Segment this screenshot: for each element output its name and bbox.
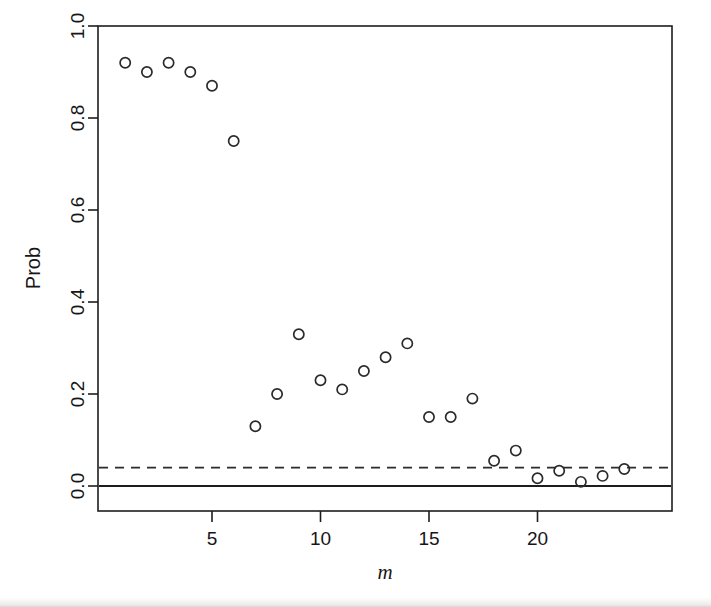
- y-tick-label: 1.0: [67, 13, 88, 39]
- y-tick-label: 0.4: [67, 288, 88, 315]
- scatter-plot-figure: 0.00.20.40.60.81.0 5101520 Prob m: [0, 0, 711, 607]
- plot-canvas: 0.00.20.40.60.81.0 5101520 Prob m: [0, 0, 711, 607]
- y-tick-label: 0.0: [67, 473, 88, 499]
- y-axis: 0.00.20.40.60.81.0: [67, 13, 98, 499]
- data-point: [619, 464, 629, 474]
- data-point: [424, 412, 434, 422]
- data-point: [229, 136, 239, 146]
- data-point: [337, 384, 347, 394]
- x-axis-title: m: [377, 560, 392, 584]
- data-point: [272, 389, 282, 399]
- x-tick-label: 10: [310, 528, 331, 549]
- x-tick-label: 20: [527, 528, 548, 549]
- plot-frame: [98, 26, 672, 511]
- data-point-series: [120, 58, 629, 487]
- data-point: [142, 67, 152, 77]
- data-point: [446, 412, 456, 422]
- x-tick-label: 5: [207, 528, 218, 549]
- page-edge-shadow: [0, 597, 711, 607]
- data-point: [315, 375, 325, 385]
- data-point: [207, 81, 217, 91]
- y-tick-label: 0.6: [67, 197, 88, 223]
- data-point: [467, 394, 477, 404]
- data-point: [489, 456, 499, 466]
- data-point: [164, 58, 174, 68]
- data-point: [402, 338, 412, 348]
- data-point: [381, 352, 391, 362]
- y-tick-label: 0.2: [67, 381, 88, 407]
- y-axis-title: Prob: [22, 247, 44, 289]
- data-point: [294, 329, 304, 339]
- data-point: [532, 473, 542, 483]
- data-point: [359, 366, 369, 376]
- y-tick-label: 0.8: [67, 105, 88, 131]
- data-point: [598, 471, 608, 481]
- data-point: [250, 421, 260, 431]
- x-axis: 5101520: [207, 511, 548, 549]
- data-point: [554, 466, 564, 476]
- x-tick-label: 15: [418, 528, 439, 549]
- data-point: [120, 58, 130, 68]
- data-point: [511, 445, 521, 455]
- data-point: [185, 67, 195, 77]
